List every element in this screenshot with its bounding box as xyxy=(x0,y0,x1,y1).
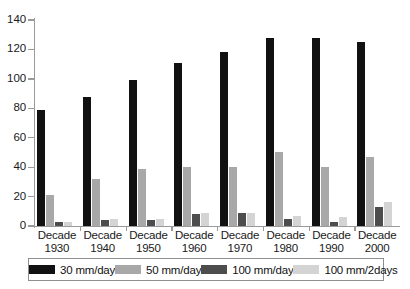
bar xyxy=(366,157,374,226)
bar xyxy=(183,167,191,226)
chart-legend: 30 mm/day50 mm/day100 mm/day100 mm/2days xyxy=(28,258,384,281)
category-label-line: 1970 xyxy=(217,242,263,255)
bar-group xyxy=(312,20,347,226)
bar xyxy=(284,219,292,226)
category-label-line: 1960 xyxy=(171,242,217,255)
category-label-line: Decade xyxy=(34,229,80,242)
category-label: Decade2000 xyxy=(354,229,400,255)
y-axis-tick-label: 120 xyxy=(0,43,26,55)
legend-swatch-icon xyxy=(115,265,141,274)
category-label-line: Decade xyxy=(126,229,172,242)
legend-item: 100 mm/2days xyxy=(293,264,397,276)
bar xyxy=(339,217,347,226)
legend-item: 100 mm/day xyxy=(201,264,293,276)
bar xyxy=(321,167,329,226)
category-label: Decade1950 xyxy=(126,229,172,255)
bar xyxy=(46,195,54,226)
bar-group xyxy=(37,20,72,226)
category-label-line: 1980 xyxy=(263,242,309,255)
category-label-line: 1940 xyxy=(80,242,126,255)
legend-swatch-icon xyxy=(201,265,227,274)
bar xyxy=(64,222,72,226)
bar xyxy=(138,169,146,226)
bar xyxy=(266,38,274,226)
bar xyxy=(192,214,200,226)
bar-group xyxy=(357,20,392,226)
bar xyxy=(174,63,182,226)
category-label: Decade1970 xyxy=(217,229,263,255)
bar-group xyxy=(266,20,301,226)
bar xyxy=(312,38,320,226)
bar xyxy=(384,202,392,226)
category-label: Decade1940 xyxy=(80,229,126,255)
bar xyxy=(92,179,100,226)
bar-group xyxy=(220,20,255,226)
category-label-line: 2000 xyxy=(354,242,400,255)
category-label-line: 1950 xyxy=(126,242,172,255)
bar xyxy=(375,207,383,226)
plot-area xyxy=(34,20,400,226)
y-axis-tick-label: 20 xyxy=(0,191,26,203)
category-label: Decade1960 xyxy=(171,229,217,255)
category-label-line: Decade xyxy=(354,229,400,242)
legend-swatch-icon xyxy=(293,265,319,274)
category-label: Decade1980 xyxy=(263,229,309,255)
bar xyxy=(220,52,228,226)
legend-item: 50 mm/day xyxy=(115,264,201,276)
y-axis-tick-label: 0 xyxy=(0,220,26,232)
bar xyxy=(55,222,63,226)
bar xyxy=(293,216,301,226)
y-axis-tick-label: 140 xyxy=(0,14,26,26)
bar xyxy=(110,219,118,226)
category-label-line: Decade xyxy=(217,229,263,242)
bar-chart: 020406080100120140 Decade1930Decade1940D… xyxy=(0,0,410,289)
bar xyxy=(238,213,246,226)
category-label-line: Decade xyxy=(263,229,309,242)
category-label: Decade1930 xyxy=(34,229,80,255)
bar-group xyxy=(83,20,118,226)
category-label-line: Decade xyxy=(171,229,217,242)
legend-label: 100 mm/2days xyxy=(324,264,397,276)
legend-swatch-icon xyxy=(29,265,55,274)
legend-label: 50 mm/day xyxy=(146,264,201,276)
y-axis-tick-label: 60 xyxy=(0,132,26,144)
category-label-line: Decade xyxy=(80,229,126,242)
bar xyxy=(156,219,164,226)
bar xyxy=(247,213,255,226)
bar xyxy=(229,167,237,226)
category-label-line: 1930 xyxy=(34,242,80,255)
bar xyxy=(201,213,209,226)
bar xyxy=(275,152,283,226)
bar-group xyxy=(129,20,164,226)
bar xyxy=(37,110,45,226)
y-axis-tick-label: 100 xyxy=(0,73,26,85)
legend-label: 30 mm/day xyxy=(60,264,115,276)
category-label-line: Decade xyxy=(309,229,355,242)
bar xyxy=(101,220,109,226)
bar xyxy=(330,222,338,226)
bar xyxy=(83,97,91,226)
y-axis-tick-label: 80 xyxy=(0,102,26,114)
y-axis-tick-label: 40 xyxy=(0,161,26,173)
category-label-line: 1990 xyxy=(309,242,355,255)
legend-item: 30 mm/day xyxy=(29,264,115,276)
bar xyxy=(147,220,155,226)
legend-label: 100 mm/day xyxy=(232,264,293,276)
bar xyxy=(129,80,137,226)
bar-group xyxy=(174,20,209,226)
category-label: Decade1990 xyxy=(309,229,355,255)
bar xyxy=(357,42,365,226)
